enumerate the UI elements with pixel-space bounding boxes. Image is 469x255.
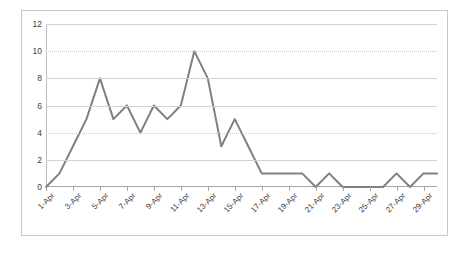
y-tick-label: 8 <box>37 73 42 83</box>
x-tick-label: 17-Apr <box>249 191 272 214</box>
x-tick-label: 25-Apr <box>357 191 380 214</box>
x-tick-label: 5-Apr <box>90 191 110 211</box>
x-tick-label: 3-Apr <box>63 191 83 211</box>
gridline-4 <box>46 133 437 134</box>
y-tick-label: 2 <box>37 155 42 165</box>
x-tick-label: 29-Apr <box>411 191 434 214</box>
gridline-2 <box>46 160 437 161</box>
x-tick-label: 9-Apr <box>144 191 164 211</box>
x-tick-label: 7-Apr <box>117 191 137 211</box>
x-tick-label: 11-Apr <box>168 191 191 214</box>
gridline-12 <box>46 24 437 25</box>
y-tick-label: 0 <box>37 182 42 192</box>
gridline-10 <box>46 51 437 52</box>
x-tick-label: 27-Apr <box>384 191 407 214</box>
y-axis-labels: 024681012 <box>18 24 42 187</box>
x-tick-label: 13-Apr <box>195 191 218 214</box>
chart-figure: 024681012 1-Apr3-Apr5-Apr7-Apr9-Apr11-Ap… <box>0 0 469 255</box>
x-tick-label: 15-Apr <box>222 191 245 214</box>
y-tick-label: 6 <box>37 101 42 111</box>
y-tick-label: 4 <box>37 128 42 138</box>
plot-area <box>46 24 437 187</box>
x-tick-label: 21-Apr <box>303 191 326 214</box>
gridline-6 <box>46 106 437 107</box>
series-polyline <box>46 51 437 187</box>
y-tick-label: 12 <box>33 19 42 29</box>
x-axis-labels: 1-Apr3-Apr5-Apr7-Apr9-Apr11-Apr13-Apr15-… <box>46 191 437 241</box>
x-tick-label: 19-Apr <box>276 191 299 214</box>
y-tick-label: 10 <box>33 46 42 56</box>
x-tick-label: 23-Apr <box>330 191 353 214</box>
gridline-8 <box>46 78 437 79</box>
